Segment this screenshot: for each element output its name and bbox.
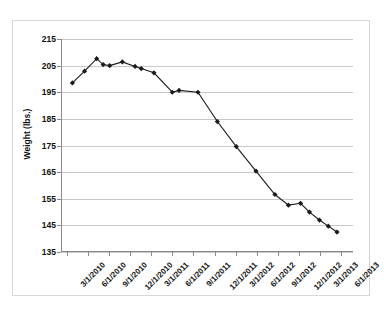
x-tick-mark (88, 252, 89, 256)
gridline (61, 252, 353, 253)
series-line (72, 59, 337, 232)
x-tick-mark (172, 252, 173, 256)
x-tick-mark (130, 252, 131, 256)
y-tick-label: 175 (42, 141, 56, 151)
y-axis-title: Weight (lbs.) (22, 74, 32, 194)
data-point-marker (132, 64, 137, 69)
weight-series (61, 39, 353, 252)
y-tick-label: 135 (42, 247, 56, 257)
x-tick-mark (193, 252, 194, 256)
data-point-marker (107, 63, 112, 68)
y-tick-label: 205 (42, 61, 56, 71)
x-tick-mark (341, 252, 342, 256)
x-tick-mark (299, 252, 300, 256)
chart-plot-container: Weight (lbs.) 13514515516517518519520521… (13, 21, 369, 295)
x-tick-mark (109, 252, 110, 256)
plot-area: 135145155165175185195205215 3/1/20106/1/… (61, 39, 353, 252)
x-tick-mark (278, 252, 279, 256)
y-tick-label: 195 (42, 87, 56, 97)
x-tick-mark (67, 252, 68, 256)
y-tick-label: 155 (42, 194, 56, 204)
chart-frame: Weight (lbs.) 13514515516517518519520521… (12, 20, 370, 296)
y-tick-label: 185 (42, 114, 56, 124)
y-tick-label: 215 (42, 34, 56, 44)
y-tick-mark (57, 252, 61, 253)
x-tick-mark (320, 252, 321, 256)
y-tick-label: 165 (42, 167, 56, 177)
x-tick-mark (236, 252, 237, 256)
data-point-marker (120, 59, 125, 64)
data-point-marker (139, 66, 144, 71)
x-tick-mark (151, 252, 152, 256)
y-tick-label: 145 (42, 220, 56, 230)
x-tick-mark (257, 252, 258, 256)
x-tick-mark (215, 252, 216, 256)
data-point-marker (176, 88, 181, 93)
